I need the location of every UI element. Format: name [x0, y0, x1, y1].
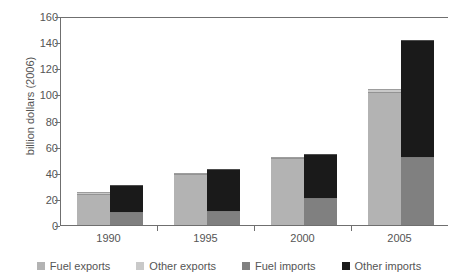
bar-segment-other-imports-2000: [304, 154, 337, 197]
x-tick-label: 2005: [387, 232, 411, 244]
bar-segment-other-imports-2005: [401, 40, 434, 158]
bar-segment-other-exports-1995: [174, 173, 207, 174]
bar-imports-1995: [207, 169, 240, 225]
x-tick-mark: [157, 226, 158, 231]
legend-swatch-icon: [37, 262, 45, 270]
bar-exports-2000: [271, 157, 304, 225]
y-tick-label: 0: [0, 220, 58, 232]
bar-segment-fuel-imports-2005: [401, 157, 434, 225]
bar-segment-other-exports-2000: [271, 157, 304, 158]
y-tick-label: 140: [0, 37, 58, 49]
bar-segment-fuel-exports-1995: [174, 174, 207, 225]
bar-imports-2000: [304, 154, 337, 225]
x-tick-label: 2000: [290, 232, 314, 244]
legend-item-fuel-exports: Fuel exports: [37, 260, 111, 272]
x-tick-mark: [254, 226, 255, 231]
legend-label: Other exports: [149, 260, 216, 272]
x-tick-label: 1995: [193, 232, 217, 244]
y-tick-label: 120: [0, 63, 58, 75]
bar-segment-other-exports-1990: [77, 192, 110, 193]
legend-item-other-imports: Other imports: [342, 260, 422, 272]
y-tick-label: 160: [0, 11, 58, 23]
bar-segment-fuel-exports-1990: [77, 194, 110, 225]
bar-segment-fuel-imports-1995: [207, 211, 240, 225]
y-tick-label: 60: [0, 142, 58, 154]
legend-label: Fuel imports: [255, 260, 316, 272]
bar-segment-other-imports-1995: [207, 169, 240, 211]
bar-segment-fuel-exports-2000: [271, 158, 304, 225]
bar-segment-fuel-imports-1990: [110, 212, 143, 225]
bar-exports-1990: [77, 192, 110, 225]
bar-segment-other-imports-1990: [110, 185, 143, 212]
x-tick-label: 1990: [96, 232, 120, 244]
legend-swatch-icon: [136, 262, 144, 270]
y-tick-mark: [55, 226, 60, 227]
legend-item-fuel-imports: Fuel imports: [242, 260, 316, 272]
chart-legend: Fuel exportsOther exportsFuel importsOth…: [0, 256, 458, 276]
legend-swatch-icon: [342, 262, 350, 270]
y-tick-label: 80: [0, 116, 58, 128]
legend-label: Other imports: [355, 260, 422, 272]
y-tick-label: 20: [0, 194, 58, 206]
bar-segment-fuel-exports-2005: [368, 92, 401, 225]
bar-exports-1995: [174, 173, 207, 225]
legend-item-other-exports: Other exports: [136, 260, 216, 272]
legend-swatch-icon: [242, 262, 250, 270]
y-tick-label: 100: [0, 89, 58, 101]
legend-label: Fuel exports: [50, 260, 111, 272]
x-tick-mark: [351, 226, 352, 231]
plot-area: [60, 17, 448, 226]
bar-exports-2005: [368, 89, 401, 225]
bar-imports-1990: [110, 185, 143, 225]
bar-chart: billion dollars (2006) 02040608010012014…: [0, 0, 458, 278]
bar-segment-fuel-imports-2000: [304, 198, 337, 225]
bar-imports-2005: [401, 40, 434, 225]
y-tick-label: 40: [0, 168, 58, 180]
bar-segment-other-exports-2005: [368, 89, 401, 92]
